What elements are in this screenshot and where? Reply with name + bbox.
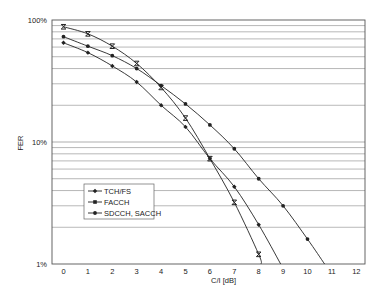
x-square-marker-icon <box>93 200 97 204</box>
x-tick-label: 6 <box>208 267 212 276</box>
x-tick-label: 5 <box>183 267 187 276</box>
diamond-marker-icon <box>257 222 261 226</box>
y-tick-label: 10% <box>32 138 47 147</box>
legend: TCH/FS FACCH SDCCH, SACCH <box>84 184 161 219</box>
x-tick-label: 0 <box>61 267 65 276</box>
legend-label: FACCH <box>104 198 129 207</box>
legend-label: SDCCH, SACCH <box>104 209 161 218</box>
circle-marker-icon <box>135 67 139 71</box>
x-marker-icon <box>183 116 188 121</box>
x-axis-ticks: 0123456789101112 <box>61 267 360 276</box>
x-tick-label: 12 <box>352 267 360 276</box>
circle-marker-icon <box>93 211 97 215</box>
x-tick-label: 4 <box>159 267 163 276</box>
series-line <box>64 37 325 264</box>
x-tick-label: 1 <box>86 267 90 276</box>
x-tick-label: 2 <box>110 267 114 276</box>
x-axis-title: C/I [dB] <box>211 276 236 285</box>
x-marker-icon <box>232 200 237 205</box>
y-axis-ticks: 100%10%1% <box>28 16 48 269</box>
circle-marker-icon <box>86 44 90 48</box>
circle-marker-icon <box>257 177 261 181</box>
x-tick-label: 9 <box>281 267 285 276</box>
circle-marker-icon <box>62 35 66 39</box>
x-tick-label: 7 <box>232 267 236 276</box>
x-tick-label: 10 <box>303 267 311 276</box>
diamond-marker-icon <box>86 50 90 54</box>
circle-marker-icon <box>232 147 236 151</box>
y-tick-label: 1% <box>36 260 47 269</box>
circle-marker-icon <box>110 54 114 58</box>
x-marker-icon <box>86 32 91 37</box>
diamond-marker-icon <box>110 64 114 68</box>
circle-marker-icon <box>159 84 163 88</box>
series-sdcch-sacch <box>62 35 325 264</box>
circle-marker-icon <box>208 123 212 127</box>
x-marker-icon <box>134 61 139 66</box>
diamond-marker-icon <box>61 41 65 45</box>
y-axis-title: FER <box>16 135 25 151</box>
data-series <box>61 24 324 264</box>
circle-marker-icon <box>306 237 310 241</box>
series-facch <box>61 24 261 264</box>
x-tick-label: 3 <box>135 267 139 276</box>
legend-label: TCH/FS <box>104 187 131 196</box>
x-marker-icon <box>110 44 115 49</box>
x-tick-label: 11 <box>328 267 336 276</box>
x-marker-icon <box>256 252 261 257</box>
circle-marker-icon <box>281 204 285 208</box>
fer-chart: 100%10%1% 0123456789101112 C/I [dB] FER … <box>0 0 385 303</box>
circle-marker-icon <box>184 102 188 106</box>
x-tick-label: 8 <box>257 267 261 276</box>
y-tick-label: 100% <box>28 16 48 25</box>
